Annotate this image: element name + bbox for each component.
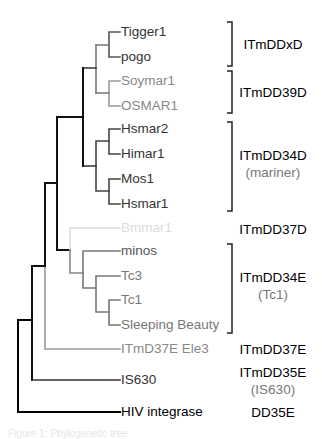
leaf-hsmar1: Hsmar1 — [121, 196, 168, 212]
clade-label-itmddxd: ITmDDxD — [228, 36, 318, 53]
tree-branch — [83, 68, 96, 166]
leaf-soymar1: Soymar1 — [121, 73, 175, 89]
tree-branch — [70, 250, 83, 273]
tree-branch — [109, 81, 120, 106]
clade-name: ITmDD34D — [239, 148, 307, 163]
leaf-osmar1: OSMAR1 — [121, 98, 178, 114]
figure-caption: Figure 1: Phylogenetic tree — [8, 428, 128, 439]
clade-name: ITmDD39D — [239, 85, 307, 100]
leaf-hsmar2: Hsmar2 — [121, 121, 168, 137]
leaf-hiv-integrase: HIV integrase — [121, 404, 203, 420]
clade-subtitle: (mariner) — [228, 164, 318, 181]
clade-name: ITmDD35E — [240, 365, 307, 380]
leaf-sleeping-beauty: Sleeping Beauty — [121, 317, 219, 333]
clade-label-itmdd37e: ITmDD37E — [228, 341, 318, 358]
leaf-is630: IS630 — [121, 372, 156, 388]
leaf-tc3: Tc3 — [121, 268, 142, 284]
clade-name: ITmDD37E — [240, 342, 307, 357]
leaf-bmmar1: Bmmar1 — [121, 220, 172, 236]
leaf-tc1: Tc1 — [121, 292, 142, 308]
leaf-itmd37e-ele3: ITmD37E Ele3 — [121, 341, 209, 357]
tree-branch — [109, 129, 120, 154]
tree-branch — [109, 32, 120, 57]
tree-branch — [96, 45, 109, 93]
clade-name: ITmDD34E — [240, 270, 307, 285]
tree-branch — [96, 141, 109, 191]
leaf-minos: minos — [121, 243, 157, 259]
clade-name: ITmDD37D — [239, 222, 307, 237]
clade-label-itmdd34e: ITmDD34E(Tc1) — [228, 269, 318, 303]
tree-branch — [70, 228, 120, 250]
tree-branch — [45, 183, 57, 266]
leaf-himar1: Himar1 — [121, 146, 165, 162]
tree-branch — [109, 179, 120, 204]
clade-name: DD35E — [251, 405, 295, 420]
leaf-mos1: Mos1 — [121, 171, 154, 187]
clade-name: ITmDDxD — [243, 37, 302, 52]
tree-branch — [18, 320, 120, 412]
clade-label-itmdd37d: ITmDD37D — [228, 221, 318, 238]
tree-branch — [32, 266, 45, 380]
tree-branches — [18, 32, 120, 412]
clade-label-itmdd39d: ITmDD39D — [228, 84, 318, 101]
clade-label-dd35e: DD35E — [228, 404, 318, 421]
clade-subtitle: (Tc1) — [228, 286, 318, 303]
clade-subtitle: (IS630) — [228, 381, 318, 398]
clade-label-itmdd34d: ITmDD34D(mariner) — [228, 147, 318, 181]
clade-label-itmdd35e: ITmDD35E(IS630) — [228, 364, 318, 398]
tree-branch — [96, 276, 120, 312]
leaf-pogo: pogo — [121, 49, 151, 65]
tree-branch — [83, 251, 120, 288]
leaf-tigger1: Tigger1 — [121, 24, 166, 40]
tree-branch — [109, 300, 120, 325]
